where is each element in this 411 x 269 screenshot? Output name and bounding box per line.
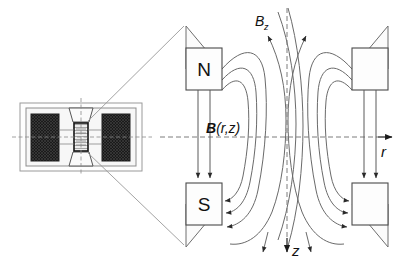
field-line-left-3 [222,81,249,201]
north-pole-label: N [197,59,211,80]
field-vector-b: B [206,120,216,136]
south-pole-right-body [352,183,388,225]
field-vector-label: B(r,z) [206,120,240,136]
field-vector-args: (r,z) [216,120,240,136]
bottom-arrow-right [306,232,311,252]
field-line-right-1 [308,53,352,227]
axis-r-label: r [381,143,387,160]
south-pole-label: S [198,194,211,215]
field-line-left-2 [222,68,257,213]
coil-right [102,114,130,161]
bz-label-base: B [255,13,264,29]
magnified-pole-gap: N S [160,8,392,259]
magnet-assembly-overview [12,98,152,176]
bottom-arrow-left [263,232,268,252]
field-line-right-4 [288,36,344,244]
north-pole-right-body [352,48,388,90]
gap-flux-right [364,90,376,178]
field-line-left-4 [230,36,286,244]
field-line-left-1 [222,53,266,227]
field-line-right-3 [325,81,352,201]
magnet-field-diagram: N S [0,0,411,269]
bz-label-subscript: z [263,22,269,32]
field-line-right-2 [317,68,352,213]
field-lines-right [288,36,352,244]
axis-z-label: z [291,242,300,259]
figure-root: N S [0,0,411,269]
coil-left [31,114,59,161]
field-line-left-5 [278,12,296,240]
